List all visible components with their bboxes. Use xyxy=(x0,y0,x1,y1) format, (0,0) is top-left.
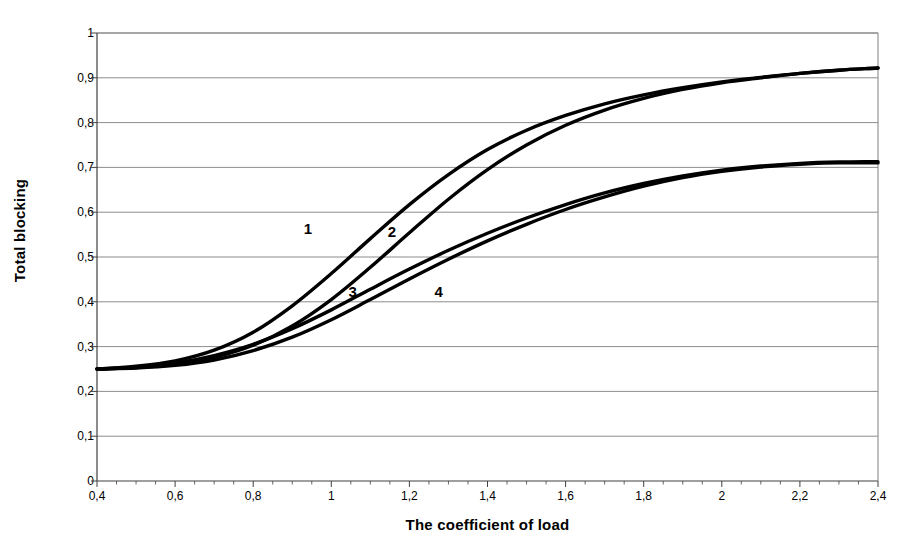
data-curve-2 xyxy=(97,68,878,369)
curve-label-1: 1 xyxy=(304,219,312,236)
x-axis-title: The coefficient of load xyxy=(97,516,878,533)
x-tick-label: 2 xyxy=(718,489,725,503)
plot-area xyxy=(0,0,917,557)
chart-figure: Total blocking 00,10,20,30,40,50,60,70,8… xyxy=(0,0,917,557)
x-tick-label: 1,4 xyxy=(479,489,496,503)
data-curve-4 xyxy=(97,163,878,369)
curve-label-3: 3 xyxy=(349,282,357,299)
x-tick-label: 2,4 xyxy=(870,489,887,503)
x-axis-tick-labels: 0,40,60,811,21,41,61,822,22,4 xyxy=(0,489,917,509)
x-tick-label: 0,6 xyxy=(167,489,184,503)
x-tick-label: 1 xyxy=(328,489,335,503)
x-tick-label: 1,6 xyxy=(557,489,574,503)
x-tick-label: 0,8 xyxy=(245,489,262,503)
data-curve-3 xyxy=(97,162,878,369)
x-tick-label: 0,4 xyxy=(89,489,106,503)
x-tick-label: 1,2 xyxy=(401,489,418,503)
curve-label-2: 2 xyxy=(388,223,396,240)
data-curve-1 xyxy=(97,68,878,369)
curve-label-4: 4 xyxy=(435,282,443,299)
x-tick-label: 2,2 xyxy=(792,489,809,503)
x-tick-label: 1,8 xyxy=(635,489,652,503)
